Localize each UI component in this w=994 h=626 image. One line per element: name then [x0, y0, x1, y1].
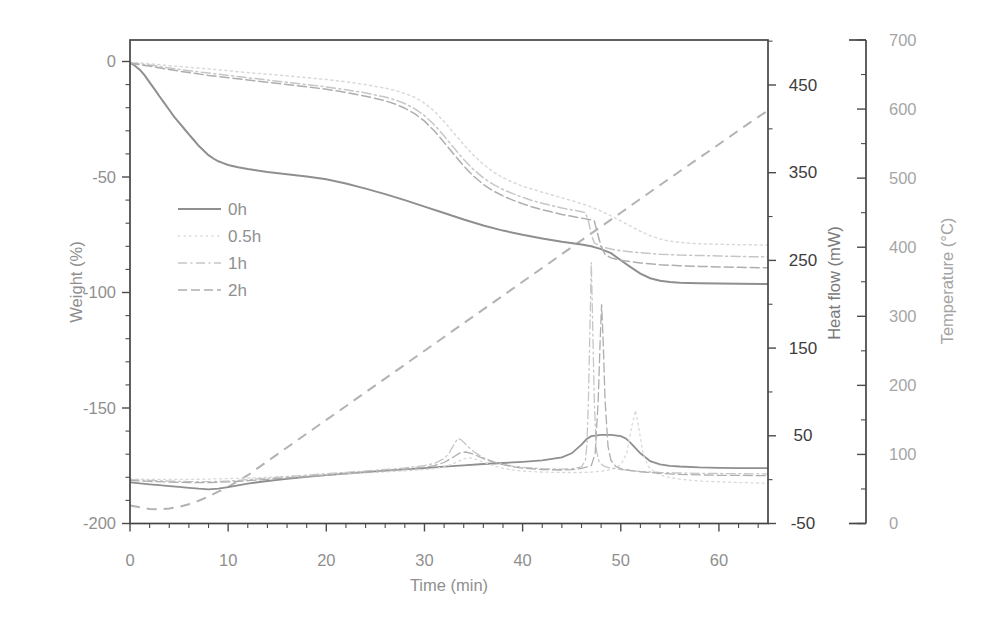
temperature-tick-label: 100	[889, 445, 917, 463]
weight-tick-label: -50	[92, 168, 116, 186]
legend-label-0h: 0h	[228, 200, 247, 219]
thermal-analysis-chart: 0102030405060Time (min)0-50-100-150-200W…	[0, 0, 994, 626]
dsc-curve-2h	[130, 304, 768, 482]
heatflow-tick-label: 450	[789, 76, 817, 95]
weight-axis-title: Weight (%)	[67, 241, 85, 322]
weight-tick-label: -100	[83, 283, 116, 301]
temperature-tick-label: 700	[889, 31, 917, 49]
x-tick-label: 30	[415, 551, 433, 569]
legend-label-1h: 1h	[228, 254, 247, 273]
axes-group: 0102030405060Time (min)0-50-100-150-200W…	[67, 31, 956, 594]
temperature-tick-label: 0	[889, 514, 898, 532]
temperature-tick-label: 300	[889, 307, 917, 325]
legend-label-2h: 2h	[228, 281, 247, 300]
weight-tick-label: -200	[83, 514, 116, 532]
temperature-tick-label: 400	[889, 238, 917, 256]
figure-page: 0102030405060Time (min)0-50-100-150-200W…	[0, 0, 994, 626]
heatflow-tick-label: 350	[789, 163, 817, 182]
heatflow-axis-title: Heat flow (mW)	[825, 226, 843, 340]
x-tick-label: 0	[125, 551, 134, 569]
curves-group	[130, 62, 768, 509]
heatflow-tick-label: 150	[789, 339, 817, 358]
x-tick-label: 60	[710, 551, 728, 569]
tga-curve-1h	[130, 63, 768, 257]
dsc-curve-1h	[130, 262, 768, 482]
x-axis-title: Time (min)	[410, 576, 488, 594]
temperature-axis-title: Temperature (°C)	[938, 218, 956, 345]
temperature-ramp-line	[130, 112, 766, 510]
tga-curve-2h	[130, 63, 768, 267]
x-tick-label: 40	[513, 551, 531, 569]
temperature-tick-label: 200	[889, 376, 917, 394]
temperature-tick-label: 600	[889, 100, 917, 118]
x-tick-label: 50	[612, 551, 630, 569]
x-tick-label: 20	[317, 551, 335, 569]
heatflow-tick-label: -50	[791, 514, 816, 533]
weight-tick-label: 0	[107, 52, 116, 70]
heatflow-tick-label: 250	[789, 251, 817, 270]
x-tick-label: 10	[219, 551, 237, 569]
legend-label-0-5h: 0.5h	[228, 227, 261, 246]
temperature-tick-label: 500	[889, 169, 917, 187]
heatflow-tick-label: 50	[794, 426, 813, 445]
tga-curve-0h	[130, 63, 768, 284]
tga-curve-0-5h	[130, 62, 768, 245]
legend: 0h0.5h1h2h	[178, 200, 261, 300]
weight-tick-label: -150	[83, 399, 116, 417]
